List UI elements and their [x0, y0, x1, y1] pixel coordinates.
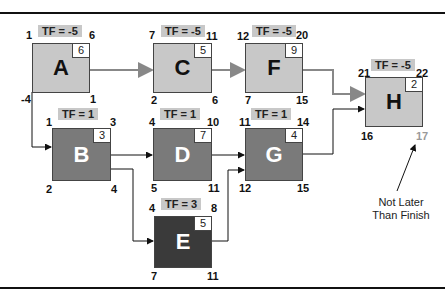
- node-b-early-start: 1: [46, 117, 52, 128]
- node-a-duration: 6: [72, 44, 89, 58]
- node-a[interactable]: A 6: [32, 43, 90, 93]
- edge-b-e: [110, 169, 153, 241]
- node-e-label: E: [176, 229, 191, 255]
- node-e-early-finish: 8: [211, 203, 217, 214]
- node-c[interactable]: C 5: [153, 43, 212, 93]
- node-h-late-start: 16: [361, 131, 373, 142]
- node-h-late-finish: 17: [416, 131, 428, 142]
- node-c-early-finish: 11: [206, 31, 218, 42]
- node-c-label: C: [175, 55, 191, 81]
- node-e[interactable]: E 5: [154, 216, 212, 268]
- node-c-late-finish: 6: [212, 95, 218, 106]
- node-h-total-float: TF = -5: [371, 59, 415, 71]
- node-e-early-start: 4: [149, 203, 155, 214]
- node-a-early-start: 1: [26, 30, 32, 41]
- node-f-total-float: TF = -5: [252, 25, 296, 37]
- edge-f-h: [302, 70, 364, 94]
- node-g-early-start: 11: [239, 117, 251, 128]
- node-a-label: A: [53, 55, 69, 81]
- node-h-label: H: [386, 89, 402, 115]
- node-g-duration: 4: [285, 129, 302, 143]
- node-f[interactable]: F 9: [245, 43, 303, 93]
- note-line-2: Than Finish: [366, 209, 436, 222]
- node-g[interactable]: G 4: [245, 128, 303, 181]
- node-d-early-start: 4: [149, 117, 155, 128]
- node-f-duration: 9: [285, 44, 302, 58]
- node-f-late-finish: 15: [296, 95, 308, 106]
- node-g-label: G: [265, 142, 282, 168]
- node-a-early-finish: 6: [89, 30, 95, 41]
- node-f-late-start: 7: [245, 95, 251, 106]
- node-g-late-finish: 15: [297, 183, 309, 194]
- node-e-late-finish: 11: [207, 271, 219, 282]
- node-b-total-float: TF = 1: [58, 108, 98, 120]
- node-d-total-float: TF = 1: [160, 108, 200, 120]
- node-a-late-start: -4: [21, 94, 31, 105]
- node-d-early-finish: 10: [207, 117, 219, 128]
- node-b-early-finish: 3: [110, 117, 116, 128]
- edge-g-h: [302, 109, 364, 154]
- node-d-label: D: [175, 142, 191, 168]
- note-line-1: Not Later: [366, 196, 436, 209]
- node-c-late-start: 2: [151, 95, 157, 106]
- node-d-duration: 7: [194, 129, 211, 143]
- node-e-duration: 5: [194, 217, 211, 231]
- node-b-late-start: 2: [46, 184, 52, 195]
- not-later-than-finish-note: Not Later Than Finish: [366, 196, 436, 222]
- node-c-total-float: TF = -5: [161, 25, 205, 37]
- node-b-label: B: [74, 142, 90, 168]
- node-h[interactable]: H 2: [365, 77, 423, 127]
- node-a-total-float: TF = -5: [38, 25, 82, 37]
- node-g-late-start: 12: [239, 183, 251, 194]
- node-c-duration: 5: [194, 44, 211, 58]
- node-d[interactable]: D 7: [153, 128, 212, 181]
- node-h-duration: 2: [405, 78, 422, 92]
- node-f-label: F: [267, 55, 280, 81]
- node-c-early-start: 7: [149, 30, 155, 41]
- node-g-early-finish: 14: [297, 117, 309, 128]
- node-b[interactable]: B 3: [52, 128, 111, 181]
- node-b-late-finish: 4: [111, 184, 117, 195]
- node-d-late-start: 5: [151, 183, 157, 194]
- node-b-duration: 3: [93, 129, 110, 143]
- node-d-late-finish: 11: [208, 183, 220, 194]
- node-e-total-float: TF = 3: [161, 198, 201, 210]
- node-f-early-start: 12: [237, 31, 249, 42]
- node-f-early-finish: 20: [296, 30, 308, 41]
- node-a-late-finish: 1: [90, 94, 96, 105]
- node-g-total-float: TF = 1: [251, 108, 291, 120]
- annotation-arrow: [397, 145, 415, 191]
- node-e-late-start: 7: [151, 271, 157, 282]
